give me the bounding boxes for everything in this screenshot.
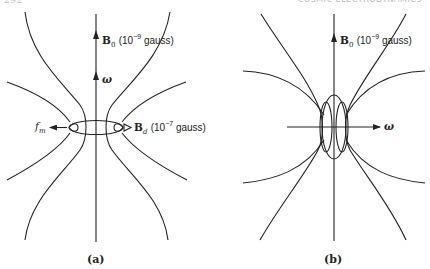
panel-b-side-upper-right (346, 71, 425, 115)
panel-b-b0-label: B0 (10−9 gauss) (340, 33, 412, 49)
panel-a-bd-label: Bd (10−7 gauss) (134, 120, 206, 136)
panel-b-omega-label: ω (384, 120, 394, 132)
panel-a-side-upper-left (7, 82, 70, 122)
panel-a-side-upper-right (122, 82, 186, 122)
panel-a-fm-label: fm (35, 120, 46, 135)
panel-a-caption: (a) (87, 253, 105, 266)
panel-a-b0-label: B0 (10−9 gauss) (102, 33, 174, 49)
panel-b-caption: (b) (324, 253, 342, 266)
panel-a-omega-label: ω (102, 73, 112, 85)
